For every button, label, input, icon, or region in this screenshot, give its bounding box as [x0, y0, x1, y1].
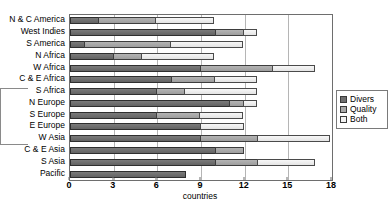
- stacked-bar[interactable]: [70, 41, 243, 48]
- bar-segment-both: [155, 17, 213, 24]
- bar-segment-diversity: [70, 112, 157, 119]
- legend-label-both: Both: [350, 115, 368, 124]
- category-label: N Europe: [29, 98, 65, 107]
- category-label: C & E Africa: [19, 74, 65, 83]
- legend-swatch-quality: [340, 106, 347, 113]
- bar-segment-diversity: [70, 17, 99, 24]
- category-label: Pacific: [40, 169, 65, 178]
- bar-segment-both: [141, 53, 214, 60]
- bar-segment-both: [272, 65, 316, 72]
- stacked-bar[interactable]: [70, 100, 257, 107]
- category-label: C & E Asia: [24, 145, 65, 154]
- tick-label: 18: [326, 180, 336, 190]
- bar-row: [70, 133, 332, 145]
- stacked-bar[interactable]: [70, 135, 330, 142]
- category-label: S Europe: [30, 110, 65, 119]
- x-axis-title: countries: [69, 191, 331, 201]
- stacked-bar[interactable]: [70, 147, 244, 154]
- category-axis-labels: N & C AmericaWest IndiesS AmericaN Afric…: [0, 14, 67, 179]
- stacked-bar[interactable]: [70, 88, 257, 95]
- bar-segment-quality: [84, 41, 171, 48]
- stacked-bar[interactable]: [70, 171, 186, 178]
- stacked-bar[interactable]: [70, 17, 214, 24]
- bar-segment-quality: [171, 76, 215, 83]
- bar-segment-both: [257, 159, 315, 166]
- bar-segment-diversity: [70, 159, 216, 166]
- legend-swatch-diversity: [340, 96, 347, 103]
- category-label: S Africa: [36, 86, 65, 95]
- stacked-bar[interactable]: [70, 53, 214, 60]
- stacked-bar[interactable]: [70, 112, 243, 119]
- stacked-bar[interactable]: [70, 29, 257, 36]
- bar-row: [70, 109, 332, 121]
- tick-label: 12: [239, 180, 249, 190]
- bar-segment-both: [243, 100, 258, 107]
- bar-segment-diversity: [70, 147, 216, 154]
- bar-segment-both: [184, 88, 257, 95]
- stacked-bar[interactable]: [70, 159, 315, 166]
- bar-segment-both: [243, 29, 258, 36]
- bar-segment-quality: [156, 112, 200, 119]
- category-label: E Europe: [30, 121, 65, 130]
- bar-row: [70, 74, 332, 86]
- legend-swatch-both: [340, 116, 347, 123]
- bar-segment-both: [170, 41, 243, 48]
- category-label: S America: [26, 39, 65, 48]
- bar-row: [70, 27, 332, 39]
- bar-segment-quality: [156, 88, 185, 95]
- stacked-bar[interactable]: [70, 76, 257, 83]
- bar-segment-both: [214, 76, 258, 83]
- category-label: N & C America: [9, 15, 65, 24]
- bar-segment-diversity: [70, 65, 201, 72]
- category-label: W Africa: [33, 63, 65, 72]
- bar-segment-quality: [98, 17, 156, 24]
- bar-row: [70, 39, 332, 51]
- tick-label: 6: [154, 180, 159, 190]
- bar-segment-both: [199, 112, 243, 119]
- bar-row: [70, 156, 332, 168]
- bar-segment-diversity: [70, 100, 230, 107]
- bar-segment-diversity: [70, 123, 201, 130]
- legend-item[interactable]: Quality: [340, 105, 385, 114]
- bar-segment-both: [200, 123, 244, 130]
- bar-row: [70, 98, 332, 110]
- plot-area: [69, 14, 333, 181]
- bar-segment-diversity: [70, 76, 172, 83]
- category-label: W Asia: [39, 133, 65, 142]
- bar-segment-quality: [215, 147, 244, 154]
- bar-rows: [70, 15, 332, 180]
- bar-segment-diversity: [70, 41, 85, 48]
- tick-label: 9: [197, 180, 202, 190]
- bar-row: [70, 62, 332, 74]
- bar-segment-quality: [200, 65, 273, 72]
- bar-segment-diversity: [70, 53, 114, 60]
- bar-segment-quality: [215, 159, 259, 166]
- bar-segment-both: [257, 135, 330, 142]
- bar-segment-quality: [215, 29, 244, 36]
- bar-segment-diversity: [70, 135, 201, 142]
- legend-label-quality: Quality: [350, 105, 376, 114]
- bar-segment-diversity: [70, 29, 216, 36]
- bar-row: [70, 86, 332, 98]
- bar-row: [70, 121, 332, 133]
- bar-segment-quality: [200, 135, 258, 142]
- bar-segment-diversity: [70, 88, 157, 95]
- bar-row: [70, 50, 332, 62]
- legend-item[interactable]: Divers: [340, 95, 385, 104]
- stacked-bar[interactable]: [70, 65, 315, 72]
- category-label: West Indies: [21, 27, 65, 36]
- tick-label: 15: [282, 180, 292, 190]
- category-label: S Asia: [41, 157, 65, 166]
- bar-row: [70, 15, 332, 27]
- category-label: N Africa: [35, 51, 65, 60]
- bar-segment-quality: [229, 100, 244, 107]
- bar-segment-quality: [113, 53, 142, 60]
- tick-label: 3: [110, 180, 115, 190]
- stacked-bar[interactable]: [70, 123, 244, 130]
- bar-row: [70, 145, 332, 157]
- legend-item[interactable]: Both: [340, 115, 385, 124]
- tick-label: 0: [66, 180, 71, 190]
- legend-label-diversity: Divers: [350, 95, 374, 104]
- chart-legend: Divers Quality Both: [336, 90, 388, 129]
